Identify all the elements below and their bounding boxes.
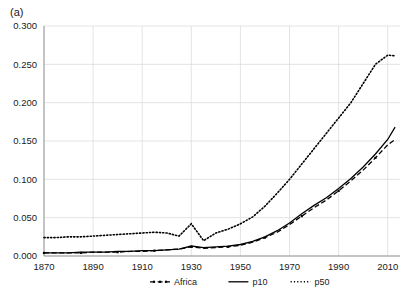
y-tick-label: 0.000	[13, 250, 37, 261]
series-marker	[301, 215, 303, 217]
x-tick-label: 1870	[33, 261, 54, 272]
chart-figure: (a) 0.0000.0500.1000.1500.2000.2500.300 …	[0, 0, 410, 299]
x-tick-label: 1970	[279, 261, 300, 272]
y-tick-label: 0.100	[13, 174, 37, 185]
legend-marker	[165, 281, 167, 283]
series-marker	[338, 190, 340, 192]
legend-label-p10: p10	[252, 277, 267, 287]
x-tick-label: 1950	[230, 261, 251, 272]
x-tick-label: 1890	[83, 261, 104, 272]
series-line-p50	[44, 55, 395, 241]
x-axis-tick-labels: 18701890191019301950197019902010	[33, 261, 398, 272]
legend-label-p50: p50	[315, 277, 330, 287]
legend-label-africa: Africa	[174, 277, 197, 287]
series-line-p10	[44, 127, 395, 253]
chart-svg: 0.0000.0500.1000.1500.2000.2500.300 1870…	[0, 0, 410, 299]
x-tick-label: 2010	[377, 261, 398, 272]
y-tick-label: 0.250	[13, 59, 37, 70]
legend-marker	[153, 281, 155, 283]
plot-area: 0.0000.0500.1000.1500.2000.2500.300 1870…	[0, 0, 410, 299]
data-series-layer	[43, 55, 395, 254]
series-marker	[374, 157, 376, 159]
x-tick-label: 1930	[181, 261, 202, 272]
legend-marker	[159, 281, 161, 283]
y-tick-label: 0.150	[13, 135, 37, 146]
y-axis-tick-labels: 0.0000.0500.1000.1500.2000.2500.300	[13, 20, 37, 261]
x-tick-label: 1910	[132, 261, 153, 272]
y-tick-label: 0.300	[13, 20, 37, 31]
y-tick-label: 0.200	[13, 97, 37, 108]
x-tick-label: 1990	[328, 261, 349, 272]
gridlines	[44, 26, 400, 256]
y-tick-label: 0.050	[13, 212, 37, 223]
chart-legend: Africap10p50	[150, 277, 330, 287]
